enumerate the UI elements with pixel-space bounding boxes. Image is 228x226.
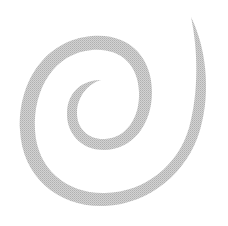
spiral-shape — [20, 17, 206, 206]
spiral-graphic — [0, 0, 228, 226]
spiral-canvas — [0, 0, 228, 226]
